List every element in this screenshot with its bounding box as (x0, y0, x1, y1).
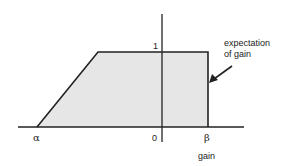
y-axis-label-one: 1 (153, 41, 158, 51)
x-axis-label-zero: 0 (152, 133, 157, 143)
x-axis-title: gain (198, 151, 215, 161)
annotation-line-2: of gain (224, 49, 251, 59)
x-axis-label-beta: β (204, 132, 210, 143)
expectation-of-gain-diagram: 1 α 0 β gain expectation of gain (0, 0, 287, 166)
x-axis-label-alpha: α (33, 132, 40, 143)
trapezoid-region (37, 52, 208, 127)
annotation-line-1: expectation (224, 38, 270, 48)
annotation-arrow-icon (209, 66, 232, 83)
